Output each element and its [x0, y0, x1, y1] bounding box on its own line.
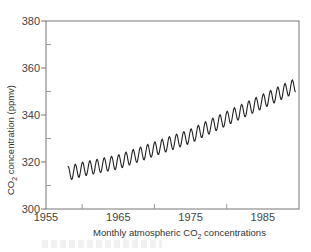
- y-tick-label: 320: [22, 156, 40, 168]
- x-tick-label: 1965: [106, 211, 130, 223]
- co2-chart: 300320340360380 1955196519751985 CO2 con…: [0, 0, 311, 252]
- x-tick-label: 1955: [34, 211, 58, 223]
- y-tick-label: 380: [22, 15, 40, 27]
- y-axis-ticks: 300320340360380: [22, 15, 51, 215]
- x-tick-label: 1975: [178, 211, 202, 223]
- y-tick-label: 360: [22, 62, 40, 74]
- plot-frame: [46, 21, 299, 209]
- faint-caption-text: [42, 240, 162, 248]
- y-axis-label: CO2 concentration (ppmv): [5, 85, 18, 195]
- x-axis-label: Monthly atmospheric CO2 concentrations: [93, 227, 266, 240]
- x-tick-label: 1985: [251, 211, 275, 223]
- y-tick-label: 340: [22, 109, 40, 121]
- co2-series-line: [68, 80, 296, 179]
- x-axis-ticks: 1955196519751985: [34, 204, 275, 223]
